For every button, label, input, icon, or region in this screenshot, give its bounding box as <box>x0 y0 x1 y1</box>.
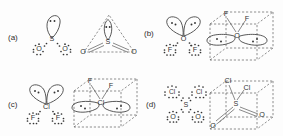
atom-label-top-right: Cl <box>196 88 203 95</box>
atom-label-top-left: F <box>88 76 93 85</box>
electron-dot <box>54 20 56 22</box>
atom-label-bottom-right: O <box>195 112 201 121</box>
lone-pair-lobe-icon <box>207 34 235 45</box>
panel-d-geometry: S Cl Cl O O <box>204 71 282 135</box>
atom-label-top-right: Cl <box>244 83 251 92</box>
lone-pair-lobe-icon <box>103 101 130 112</box>
atom-label-right: F <box>193 45 198 54</box>
atom-label-right: O <box>131 47 137 56</box>
atom-label-bottom-left: O <box>170 112 176 121</box>
panel-b-geometry: O F F <box>202 6 280 66</box>
atom-label-top-left: F <box>224 9 229 18</box>
panel-b: (b) O F F <box>142 0 283 68</box>
atom-label-left: O <box>36 44 42 53</box>
panel-a-lewis-structure: S O O <box>28 10 80 60</box>
panel-c-lewis-structure: Cl F F <box>22 80 72 128</box>
atom-label-right: F <box>56 113 61 122</box>
lone-pair-lobe-icon <box>30 85 46 104</box>
panel-d-label: (d) <box>146 100 156 109</box>
atom-label-center: S <box>106 37 111 46</box>
cube-top-face <box>210 81 273 93</box>
electron-dot <box>50 20 52 22</box>
atom-label-center: S <box>50 34 55 43</box>
panel-a-label: (a) <box>8 33 18 42</box>
panel-c-label: (c) <box>8 100 17 109</box>
panel-c-geometry: Cl F F <box>68 71 144 133</box>
cube-right-face <box>257 12 273 60</box>
cube-bottom-edge <box>210 48 273 60</box>
lone-pair-lobe-icon <box>184 17 200 36</box>
atom-label-bottom-left: O <box>210 121 216 130</box>
atom-label-center: S <box>234 99 239 108</box>
lone-pair-lobe-icon <box>72 101 99 112</box>
cube-right-face <box>121 79 137 127</box>
panel-c: (c) Cl F F <box>0 68 142 136</box>
atom-label-top-left: Cl <box>169 88 176 95</box>
lone-pair-lobe-icon <box>47 85 63 104</box>
atom-label-center: O <box>234 31 240 40</box>
lone-pair-lobe-icon <box>167 17 183 36</box>
atom-label-center: Cl <box>98 98 105 107</box>
panel-b-label: (b) <box>144 29 154 38</box>
panel-a: (a) S O O <box>0 0 142 68</box>
chemistry-figure: (a) S O O <box>0 0 283 136</box>
atom-label-center: Cl <box>43 102 50 111</box>
atom-label-right: O <box>62 44 68 53</box>
atom-label-center: S <box>184 100 189 109</box>
atom-label-left: O <box>80 47 86 56</box>
panel-d: (d) Cl Cl S O <box>142 68 283 136</box>
lone-pair-lobe-icon <box>239 34 267 45</box>
cube-right-face <box>257 81 273 129</box>
cube-top-face <box>74 79 137 91</box>
cube-bottom-edge <box>74 115 137 127</box>
atom-label-top-right: F <box>245 14 250 23</box>
panel-a-geometry: S O O <box>78 10 140 62</box>
atom-label-top-right: F <box>109 81 114 90</box>
atom-label-left: F <box>31 113 36 122</box>
atom-label-center: O <box>181 34 187 43</box>
atom-label-left: F <box>168 45 173 54</box>
cube-top-face <box>210 12 273 24</box>
atom-label-top-left: Cl <box>225 76 232 85</box>
atom-label-bottom-right: O <box>259 110 265 119</box>
